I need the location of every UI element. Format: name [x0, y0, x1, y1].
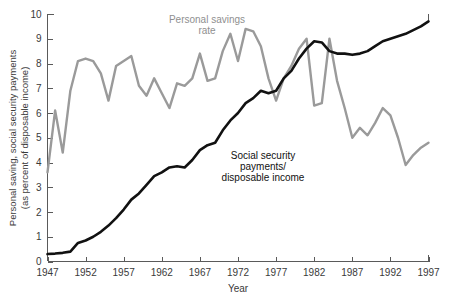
y-tick-label: 0: [36, 256, 42, 267]
annotation-savings-line1: Personal savings: [169, 14, 245, 25]
y-tick-label: 2: [36, 207, 42, 218]
y-tick-label: 9: [36, 33, 42, 44]
right-axis-group: [48, 14, 429, 262]
x-axis-tick-labels: 1947195219571962196719721977198219871992…: [36, 267, 440, 278]
series-group: [48, 21, 429, 254]
y-axis-title-group: Personal saving, social security payment…: [7, 50, 30, 227]
x-axis-group: 1947195219571962196719721977198219871992…: [36, 257, 440, 278]
x-tick-label: 1967: [189, 267, 212, 278]
x-axis-ticks: [48, 257, 429, 262]
y-tick-label: 10: [30, 9, 42, 20]
annotation-ssp-line2: payments/: [240, 161, 286, 172]
y-axis-group: 012345678910: [30, 9, 52, 268]
y-tick-label: 3: [36, 182, 42, 193]
y-axis-title-line1: Personal saving, social security payment…: [7, 50, 18, 227]
x-axis-title: Year: [228, 283, 249, 294]
y-axis-title-line2: (as percent of disposable income): [19, 67, 30, 210]
y-tick-label: 6: [36, 108, 42, 119]
annotation-savings-line2: rate: [198, 25, 216, 36]
x-tick-label: 1947: [36, 267, 59, 278]
y-tick-label: 7: [36, 83, 42, 94]
annotation-social-security-payments: Social security payments/ disposable inc…: [222, 150, 305, 183]
y-tick-label: 1: [36, 231, 42, 242]
annotation-ssp-line3: disposable income: [222, 172, 305, 183]
annotation-personal-savings-rate: Personal savings rate: [169, 14, 245, 36]
x-tick-label: 1952: [74, 267, 97, 278]
x-tick-label: 1997: [417, 267, 440, 278]
x-tick-label: 1977: [265, 267, 288, 278]
y-tick-label: 5: [36, 132, 42, 143]
x-tick-label: 1972: [227, 267, 250, 278]
annotation-ssp-line1: Social security: [231, 150, 295, 161]
y-tick-label: 8: [36, 58, 42, 69]
y-tick-label: 4: [36, 157, 42, 168]
x-tick-label: 1982: [303, 267, 326, 278]
chart-container: 012345678910 194719521957196219671972197…: [0, 0, 453, 300]
x-tick-label: 1962: [151, 267, 174, 278]
savings-vs-social-security-line-chart: 012345678910 194719521957196219671972197…: [0, 0, 453, 300]
x-tick-label: 1992: [379, 267, 402, 278]
x-tick-label: 1987: [341, 267, 364, 278]
y-axis-tick-labels: 012345678910: [30, 9, 42, 268]
x-tick-label: 1957: [113, 267, 136, 278]
